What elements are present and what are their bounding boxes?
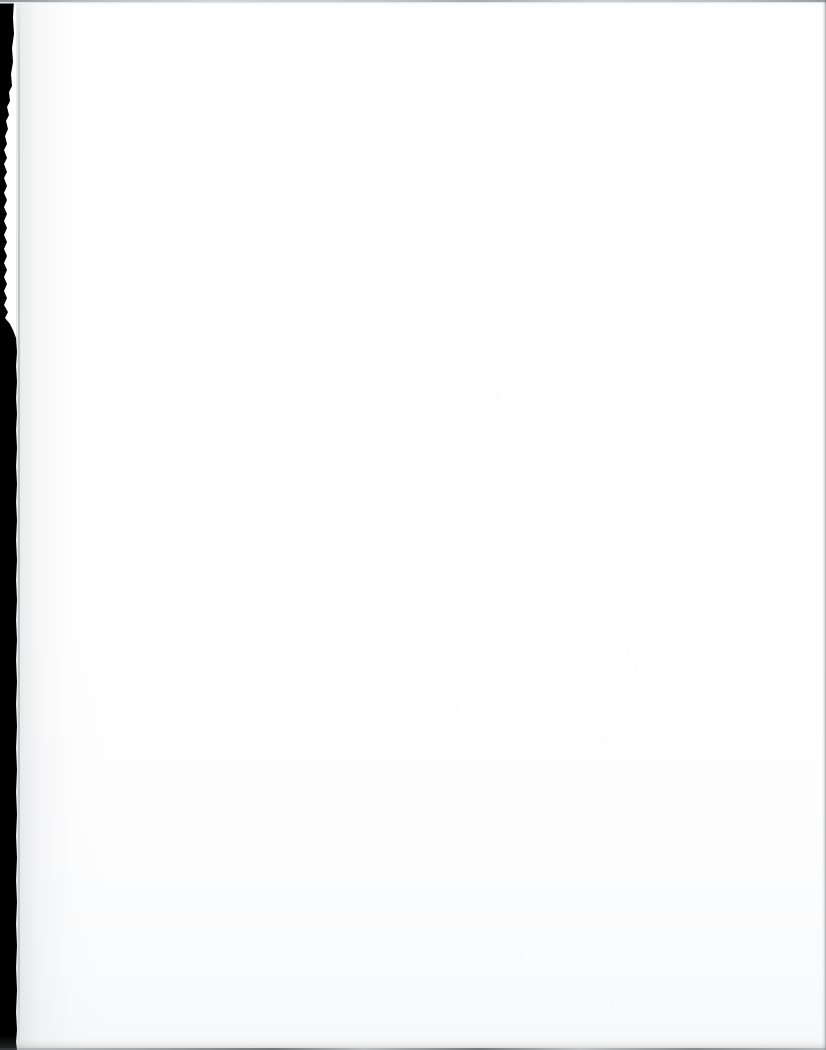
scanned-page [0,0,826,1050]
paper-surface [0,0,826,1050]
